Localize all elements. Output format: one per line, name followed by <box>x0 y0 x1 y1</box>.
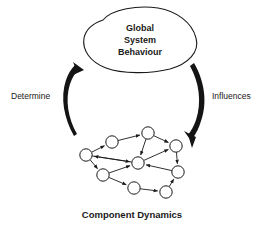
graph-node <box>106 136 118 148</box>
graph-edge <box>141 139 146 155</box>
graph-edge <box>140 189 158 191</box>
graph-node <box>80 149 92 161</box>
diagram-canvas: Global System Behaviour Determine Influe… <box>0 0 265 229</box>
blob-text-line-2: System <box>124 35 156 45</box>
blob-text-line-3: Behaviour <box>118 47 163 57</box>
graph-node <box>142 127 154 139</box>
graph-node <box>172 166 184 178</box>
determine-arrow-group: Determine <box>11 62 84 136</box>
graph-node <box>97 169 109 181</box>
global-system-behaviour-group: Global System Behaviour <box>84 7 197 73</box>
graph-edge <box>146 165 172 171</box>
determine-label: Determine <box>11 91 50 101</box>
graph-edge <box>109 166 130 173</box>
influences-label: Influences <box>212 91 251 101</box>
graph-node <box>132 157 144 169</box>
influences-arrow <box>188 63 205 139</box>
system-feedback-diagram: Global System Behaviour Determine Influe… <box>0 0 265 229</box>
graph-edge <box>144 149 169 160</box>
graph-edge <box>118 135 140 140</box>
graph-node <box>128 182 140 194</box>
graph-edge <box>92 146 105 152</box>
graph-edge <box>90 160 98 169</box>
graph-edge <box>169 179 173 186</box>
graph-node <box>160 186 172 198</box>
component-graph-nodes <box>80 127 184 198</box>
influences-arrow-group: Influences <box>184 63 251 148</box>
graph-edge <box>109 177 127 184</box>
determine-arrow <box>63 65 79 136</box>
graph-edge <box>154 136 169 143</box>
graph-node <box>170 140 182 152</box>
component-dynamics-caption: Component Dynamics <box>82 209 182 220</box>
graph-edge <box>176 152 177 163</box>
graph-edge <box>92 156 130 162</box>
blob-text-line-1: Global <box>126 23 154 33</box>
